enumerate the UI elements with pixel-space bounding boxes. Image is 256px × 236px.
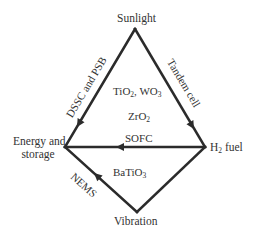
wo3-text: , WO <box>134 85 158 97</box>
batio3-text: BaTiO <box>113 166 143 178</box>
node-vibration: Vibration <box>114 215 157 227</box>
arrow-left-icon <box>116 143 124 151</box>
edge-label-sofc: SOFC <box>125 132 153 144</box>
edge-vibration-to-h2 <box>137 147 205 212</box>
h2-fuel-text: fuel <box>222 141 243 153</box>
wo3-subscript: 3 <box>158 90 162 99</box>
zro2-subscript: 2 <box>146 115 150 124</box>
zro2-text: ZrO <box>128 110 146 122</box>
node-energy-storage: Energy and storage <box>13 135 63 160</box>
node-energy-storage-line1: Energy and <box>13 135 63 147</box>
node-energy-storage-line2: storage <box>13 148 63 160</box>
node-sunlight: Sunlight <box>117 12 156 24</box>
node-h2-fuel: H2 fuel <box>210 141 243 153</box>
tio2-text: TiO <box>113 85 130 97</box>
material-batio3: BaTiO3 <box>113 166 146 178</box>
batio3-subscript: 3 <box>143 171 147 180</box>
material-zro2: ZrO2 <box>128 110 150 122</box>
material-tio2-wo3: TiO2, WO3 <box>113 85 161 97</box>
